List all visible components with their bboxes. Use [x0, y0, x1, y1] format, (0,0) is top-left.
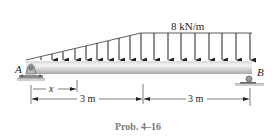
triangular-load-arrows [41, 33, 141, 60]
dimension-right-label: 3 m [188, 93, 204, 104]
distributed-load: 8 kN/m [26, 20, 252, 60]
load-intensity-label: 8 kN/m [171, 20, 205, 32]
dimension-left-label: 3 m [80, 93, 96, 104]
uniform-load-arrows [154, 33, 250, 60]
dimension-x [31, 80, 77, 104]
support-a-label: A [14, 63, 22, 75]
support-b-label: B [257, 66, 264, 78]
dimension-x-label: x [48, 83, 54, 94]
beam [26, 61, 252, 74]
beam-diagram: 8 kN/m A B x 3 m 3 m [0, 0, 276, 139]
figure-caption: Prob. 4–16 [115, 121, 161, 132]
